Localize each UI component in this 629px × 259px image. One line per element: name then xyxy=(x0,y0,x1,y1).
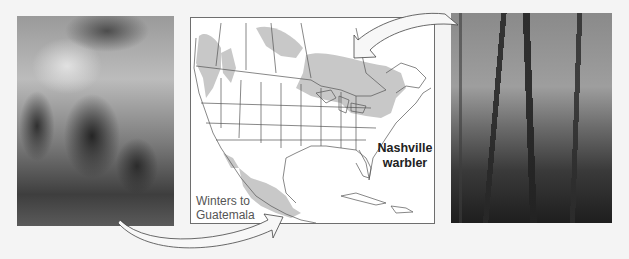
species-label-line1: Nashville xyxy=(375,141,435,156)
species-label-line2: warbler xyxy=(375,156,435,171)
species-label: Nashville warbler xyxy=(375,141,435,171)
temperate-forest-photo xyxy=(451,13,612,223)
tropical-forest-photo xyxy=(17,16,174,226)
winter-label: Winters to Guatemala xyxy=(196,194,255,222)
winter-label-line1: Winters to xyxy=(196,194,255,208)
range-map xyxy=(190,17,435,224)
winter-label-line2: Guatemala xyxy=(196,208,255,222)
